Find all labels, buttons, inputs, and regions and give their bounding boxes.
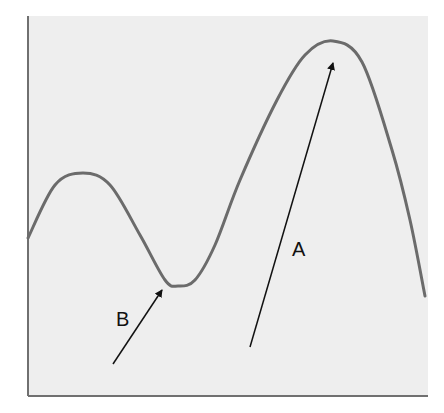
arrow-label-a: A <box>292 238 306 260</box>
arrow-label-b: B <box>116 308 129 330</box>
diagram-canvas: AB <box>0 0 444 413</box>
